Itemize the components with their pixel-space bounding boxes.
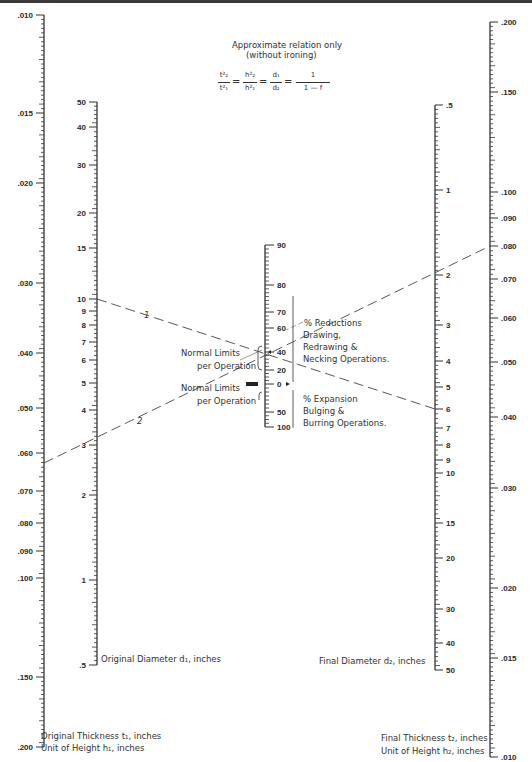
final-thickness-axis-tick-label: .050 (501, 358, 517, 367)
percent-tick-label: 90 (277, 241, 286, 250)
final-thickness-axis-tick-label: .080 (501, 242, 517, 251)
final-diameter-axis-tick-label: 20 (446, 554, 455, 563)
original-diameter-axis-tick-label: 30 (77, 161, 86, 170)
original-thickness-axis-tick-label: .030 (17, 279, 33, 288)
example-line-2 (44, 246, 490, 463)
expansion-label: % Expansion (303, 394, 358, 405)
final-diameter-axis-tick-label: 4 (446, 357, 451, 366)
original-thickness-axis-tick-label: .010 (17, 11, 33, 20)
final-diameter-axis-tick-label: 9 (446, 456, 451, 465)
reductions-leader (286, 322, 303, 330)
final-diameter-axis-tick-label: 15 (446, 519, 455, 528)
percent-tick-label: 70 (277, 308, 286, 317)
formula-h2-num: h²₂ (243, 70, 257, 81)
original-thickness-axis-tick-label: .150 (17, 673, 33, 682)
reductions-op-1: Drawing, (303, 330, 341, 341)
final-diameter-axis-tick-label: 1 (446, 186, 451, 195)
formula: t²₂ t²₁ = h²₂ h²₁ = d₁ d₂ = 1 1 — f (218, 70, 338, 98)
original-thickness-axis-tick-label: .040 (17, 349, 33, 358)
final-diameter-axis-tick-label: 30 (446, 605, 455, 614)
example-line-label: 2 (137, 416, 142, 426)
reductions-op-3: Necking Operations. (303, 354, 389, 365)
original-height-title: Unit of Height h₁, inches (41, 743, 144, 754)
final-diameter-axis-tick-label: 50 (446, 666, 455, 675)
final-thickness-axis-tick-label: .060 (501, 314, 517, 323)
formula-h1-den: h²₁ (243, 83, 257, 94)
final-height-title: Unit of Height h₂, inches (381, 746, 484, 757)
formula-one: 1 (296, 70, 330, 81)
original-diameter-axis-tick-label: 10 (77, 295, 86, 304)
final-diameter-axis-tick-label: 6 (446, 405, 451, 414)
final-thickness-title: Final Thickness t₂, inches (381, 733, 488, 744)
normal-limits-lower-2: per Operation (197, 396, 256, 407)
final-diameter-axis-tick-label: 2 (446, 271, 451, 280)
final-thickness-axis-tick-label: .010 (501, 753, 517, 762)
example-line-label: 1 (144, 310, 149, 320)
original-diameter-axis-tick-label: 40 (77, 123, 86, 132)
normal-limits-upper-2: per Operation (197, 361, 256, 372)
final-thickness-axis-tick-label: .150 (501, 88, 517, 97)
expansion-op-2: Burring Operations. (303, 418, 386, 429)
original-diameter-axis-tick-label: 50 (77, 98, 86, 107)
original-diameter-axis-tick-label: 1 (82, 576, 87, 585)
expansion-op-1: Bulging & (303, 406, 344, 417)
original-thickness-axis-tick-label: .070 (17, 487, 33, 496)
final-diameter-axis-tick-label: 40 (446, 639, 455, 648)
original-diameter-axis-tick-label: 4 (82, 406, 87, 415)
original-thickness-axis-tick-label: .015 (17, 109, 33, 118)
normal-limits-lower-brace (259, 392, 262, 400)
reductions-label: % Reductions (304, 318, 362, 329)
original-thickness-axis-tick-label: .100 (17, 574, 33, 583)
percent-tick-label: 80 (277, 281, 286, 290)
original-thickness-title: Original Thickness t₁, inches (41, 731, 161, 742)
final-thickness-axis-tick-label: .020 (501, 584, 517, 593)
original-thickness-axis-tick-label: .020 (17, 179, 33, 188)
reductions-op-2: Redrawing & (303, 342, 357, 353)
final-thickness-axis-tick-label: .200 (501, 18, 517, 27)
formula-t1-den: t²₁ (218, 83, 230, 94)
original-thickness-axis-tick-label: .080 (17, 519, 33, 528)
zero-pointer-arrow-icon (246, 382, 258, 386)
formula-t2-num: t²₂ (218, 70, 230, 81)
percent-tick-label: 20 (277, 366, 286, 375)
final-diameter-axis-tick-label: 3 (446, 321, 451, 330)
original-diameter-title: Original Diameter d₁, inches (101, 654, 221, 665)
final-diameter-axis-tick-label: 7 (446, 424, 451, 433)
original-diameter-axis-tick-label: 5 (82, 379, 87, 388)
original-thickness-axis-tick-label: .050 (17, 404, 33, 413)
percent-tick-label: 50 (277, 408, 286, 417)
final-thickness-axis-tick-label: .030 (501, 484, 517, 493)
original-diameter-axis-tick-label: 6 (82, 356, 87, 365)
final-thickness-axis-tick-label: .070 (501, 275, 517, 284)
formula-one-minus-f: 1 — f (296, 83, 330, 94)
percent-tick-label: 100 (277, 423, 291, 432)
final-thickness-axis-tick-label: .015 (501, 654, 517, 663)
percent-tick-label: 60 (277, 324, 286, 333)
original-diameter-axis-tick-label: 2 (82, 491, 87, 500)
final-diameter-axis-tick-label: 10 (446, 469, 455, 478)
nomograph: .010.015.020.030.040.050.060.070.080.090… (0, 0, 532, 762)
zero-arrow-icon (286, 382, 290, 386)
final-diameter-title: Final Diameter d₂, inches (319, 656, 425, 667)
original-diameter-axis-tick-label: 9 (82, 307, 87, 316)
percent-tick-label: 0 (277, 380, 282, 389)
final-thickness-axis-tick-label: .100 (501, 188, 517, 197)
original-diameter-axis-tick-label: 8 (82, 321, 87, 330)
original-thickness-axis-tick-label: .060 (17, 449, 33, 458)
original-diameter-axis-tick-label: 20 (77, 209, 86, 218)
final-diameter-axis-tick-label: .5 (446, 101, 453, 110)
original-diameter-axis-tick-label: 15 (77, 244, 86, 253)
formula-d1-num: d₁ (270, 70, 282, 81)
final-diameter-axis-tick-label: 5 (446, 383, 451, 392)
normal-limits-upper-1: Normal Limits (181, 348, 240, 359)
original-diameter-axis-tick-label: .5 (79, 661, 86, 670)
final-diameter-axis-tick-label: 8 (446, 441, 451, 450)
formula-d2-den: d₂ (270, 83, 282, 94)
final-thickness-axis-tick-label: .090 (501, 214, 517, 223)
final-thickness-axis-tick-label: .040 (501, 413, 517, 422)
original-thickness-axis-tick-label: .200 (17, 743, 33, 752)
original-diameter-axis-tick-label: 7 (82, 338, 87, 347)
note-line-2: (without ironing) (246, 50, 317, 61)
original-thickness-axis-tick-label: .090 (17, 547, 33, 556)
normal-limits-lower-1: Normal Limits (181, 383, 240, 394)
